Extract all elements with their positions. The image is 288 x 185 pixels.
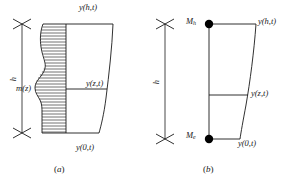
panel-caption-b: (b) [203,164,214,174]
panel-b [156,19,256,144]
base-deflection-label-a: y(0,t) [76,143,94,152]
mass-label-a: m(z) [16,84,31,93]
lumped-mass-node-top [205,20,213,28]
top-deflection-label-a: y(h,t) [79,3,97,12]
panel-caption-a: (a) [54,164,65,174]
base-deflection-label-b: y(0,t) [238,139,256,148]
top-mass-label-b: Mh [186,17,196,26]
mid-deflection-label-b: y(z,t) [251,89,268,98]
mass-hatching-a [35,27,66,132]
deflected-shape-b [209,24,256,139]
top-deflection-label-b: y(h,t) [258,17,276,26]
caption-b-close: ) [211,164,214,174]
caption-a-close: ) [62,164,65,174]
mass-strip-edges-a [42,24,66,133]
mass-distribution-profile-a [35,24,45,133]
lumped-mass-node-bottom [205,135,213,143]
figure-canvas [0,0,288,185]
bottom-mass-subscript: e [193,134,196,140]
height-label-b: h [151,72,161,92]
top-mass-subscript: h [193,20,196,26]
bottom-mass-label-b: Me [186,131,196,140]
mid-deflection-label-a: y(z,t) [86,79,103,88]
